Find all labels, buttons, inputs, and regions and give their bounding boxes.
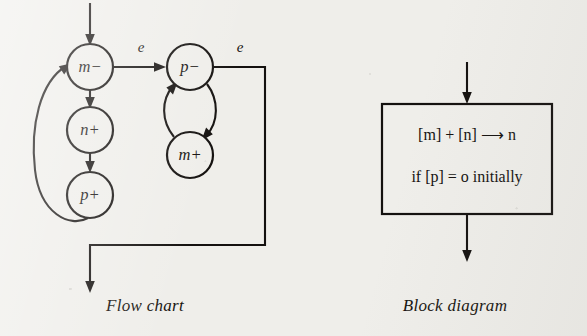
- node-m-plus[interactable]: m+: [167, 132, 213, 178]
- edge-m-minus-to-p-minus: [113, 62, 166, 72]
- node-p-minus-label: p−: [179, 57, 199, 76]
- node-p-minus[interactable]: p−: [167, 44, 213, 90]
- edge-p-minus-to-exit: [85, 67, 265, 293]
- node-p-plus-label: p+: [79, 185, 99, 204]
- edge-label-e-left: e: [138, 39, 145, 55]
- caption-block-diagram: Block diagram: [330, 296, 580, 316]
- edge-p-minus-to-m-plus: [202, 84, 216, 141]
- block-diagram-group: [m] + [n] ⟶ n if [p] = o initially: [382, 62, 552, 262]
- flow-chart-group: m− n+ p+ p− m+ e e: [34, 3, 265, 293]
- node-m-plus-label: m+: [178, 145, 201, 164]
- block-line-2: if [p] = o initially: [411, 168, 522, 186]
- edge-m-plus-to-p-minus: [164, 82, 178, 137]
- edge-n-plus-to-p-plus: [85, 153, 95, 173]
- node-m-minus[interactable]: m−: [67, 44, 113, 90]
- block-output-arrow: [462, 214, 472, 262]
- block-line-1: [m] + [n] ⟶ n: [418, 126, 516, 143]
- node-n-plus-label: n+: [80, 120, 99, 139]
- node-p-plus[interactable]: p+: [67, 172, 113, 218]
- edge-label-e-right: e: [237, 39, 244, 55]
- caption-flow-chart: Flow chart: [0, 296, 290, 316]
- entry-arrow: [85, 3, 95, 46]
- figure-page: m− n+ p+ p− m+ e e: [0, 0, 587, 336]
- node-n-plus[interactable]: n+: [67, 107, 113, 153]
- block-input-arrow: [462, 62, 472, 104]
- block-diagram-box[interactable]: [382, 104, 552, 214]
- figure-svg: m− n+ p+ p− m+ e e: [0, 0, 587, 336]
- node-m-minus-label: m−: [78, 57, 101, 76]
